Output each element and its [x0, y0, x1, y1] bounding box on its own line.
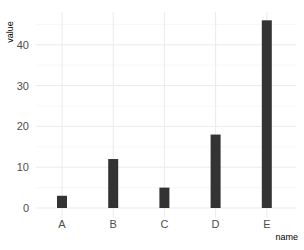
x-tick-label: E — [263, 218, 270, 230]
x-axis-title: name — [275, 232, 298, 242]
y-tick-label: 0 — [23, 202, 29, 214]
y-tick-label: 20 — [17, 120, 29, 132]
y-tick-label: 30 — [17, 80, 29, 92]
y-tick-label: 40 — [17, 39, 29, 51]
bar-d — [211, 135, 221, 208]
bar-chart: 010203040 ABCDE value name — [0, 0, 304, 250]
x-axis-ticks: ABCDE — [58, 218, 270, 230]
y-tick-label: 10 — [17, 161, 29, 173]
x-tick-label: A — [58, 218, 66, 230]
x-tick-label: D — [212, 218, 220, 230]
y-axis-title: value — [5, 21, 15, 43]
y-axis-ticks: 010203040 — [17, 39, 29, 214]
bar-e — [262, 20, 272, 208]
x-tick-label: B — [110, 218, 117, 230]
bar-c — [159, 188, 169, 208]
bar-b — [108, 159, 118, 208]
gridlines — [36, 12, 296, 218]
x-tick-label: C — [160, 218, 168, 230]
bar-a — [57, 196, 67, 208]
